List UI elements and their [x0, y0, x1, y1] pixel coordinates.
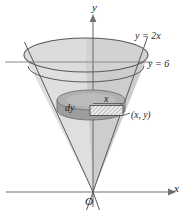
hatched-rect: [90, 106, 123, 116]
cone-left-fill: [24, 55, 93, 192]
y-axis-arrowhead: [90, 14, 97, 22]
cone-body: [24, 55, 148, 192]
plane-equation-label: y = 6: [148, 59, 169, 69]
x-axis-label: x: [174, 183, 179, 194]
cone-volume-figure: y x O y = 2x y = 6 dy x (x, y): [0, 0, 185, 219]
point-coordinates-label: (x, y): [131, 111, 151, 121]
y-axis-label: y: [92, 2, 97, 13]
origin-label: O: [85, 196, 93, 207]
radius-element-rectangle: [90, 106, 123, 116]
line-equation-label: y = 2x: [135, 31, 161, 41]
generating-line-left-extension: [93, 192, 100, 210]
radius-label-x: x: [104, 94, 108, 104]
thickness-label-dy: dy: [65, 103, 74, 113]
